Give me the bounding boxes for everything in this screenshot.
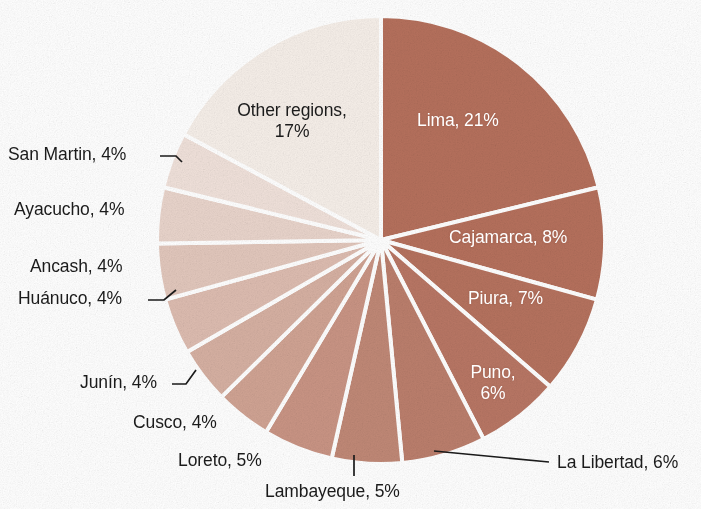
slice-label-san-martin: San Martin, 4% <box>8 144 126 165</box>
slice-label-huanuco: Huánuco, 4% <box>18 288 122 309</box>
slice-label-ayacucho: Ayacucho, 4% <box>14 199 124 220</box>
slice-label-cusco: Cusco, 4% <box>133 412 217 433</box>
slice-label-cajamarca: Cajamarca, 8% <box>449 227 567 248</box>
leader-line-la-libertad <box>434 451 549 462</box>
slice-label-puno-line2: 6% <box>458 383 528 404</box>
slice-label-ancash: Ancash, 4% <box>30 256 122 277</box>
slice-label-lambayeque: Lambayeque, 5% <box>265 481 400 502</box>
slice-label-la-libertad: La Libertad, 6% <box>557 452 678 473</box>
slice-label-other-regions-line2: 17% <box>222 121 362 142</box>
slice-label-junin: Junín, 4% <box>80 372 157 393</box>
slice-label-piura: Piura, 7% <box>468 288 543 309</box>
slice-label-puno: Puno, 6% <box>458 362 528 404</box>
slice-label-other-regions: Other regions, 17% <box>222 100 362 141</box>
leader-line-junin <box>172 370 196 384</box>
slice-label-loreto: Loreto, 5% <box>178 450 262 471</box>
pie-chart: Lima, 21% Cajamarca, 8% Piura, 7% Puno, … <box>0 0 701 509</box>
pie-chart-canvas <box>0 0 701 509</box>
slice-label-other-regions-line1: Other regions, <box>222 100 362 121</box>
slice-label-puno-line1: Puno, <box>458 362 528 383</box>
slice-label-lima: Lima, 21% <box>417 110 499 131</box>
